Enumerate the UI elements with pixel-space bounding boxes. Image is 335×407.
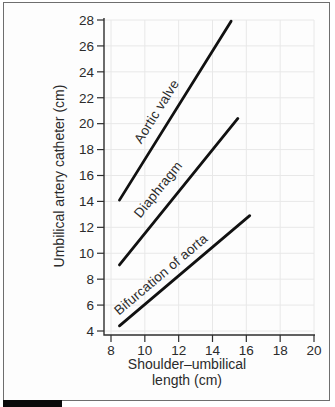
y-tick-label: 6 [86,298,94,313]
catheter-chart-svg: 468101214161820222426288101214161820 Aor… [0,0,335,407]
y-tick-label: 10 [79,246,94,261]
y-tick-label: 18 [79,142,94,157]
x-axis-title-line1: Shoulder–umbilical [128,356,246,372]
series-layer: Aortic valveDiaphragmBifurcation of aort… [111,21,249,326]
x-axis-title-line2: length (cm) [152,372,222,388]
y-tick-label: 14 [79,194,95,209]
y-tick-label: 26 [79,39,94,54]
y-tick-label: 24 [79,65,95,80]
y-tick-label: 4 [86,324,94,339]
y-tick-label: 28 [79,13,94,28]
y-axis-title: Umbilical artery catheter (cm) [51,85,67,268]
x-tick-label: 20 [306,343,321,358]
y-tick-label: 16 [79,168,94,183]
y-tick-label: 8 [86,272,94,287]
x-tick-label: 18 [273,343,288,358]
bifurcation-of-aorta-line [119,216,249,326]
x-tick-label: 8 [107,343,115,358]
y-tick-label: 12 [79,220,94,235]
y-tick-label: 22 [79,91,94,106]
y-tick-label: 20 [79,116,94,131]
figure-page: 468101214161820222426288101214161820 Aor… [0,0,335,407]
figure-number-tab [3,400,62,407]
